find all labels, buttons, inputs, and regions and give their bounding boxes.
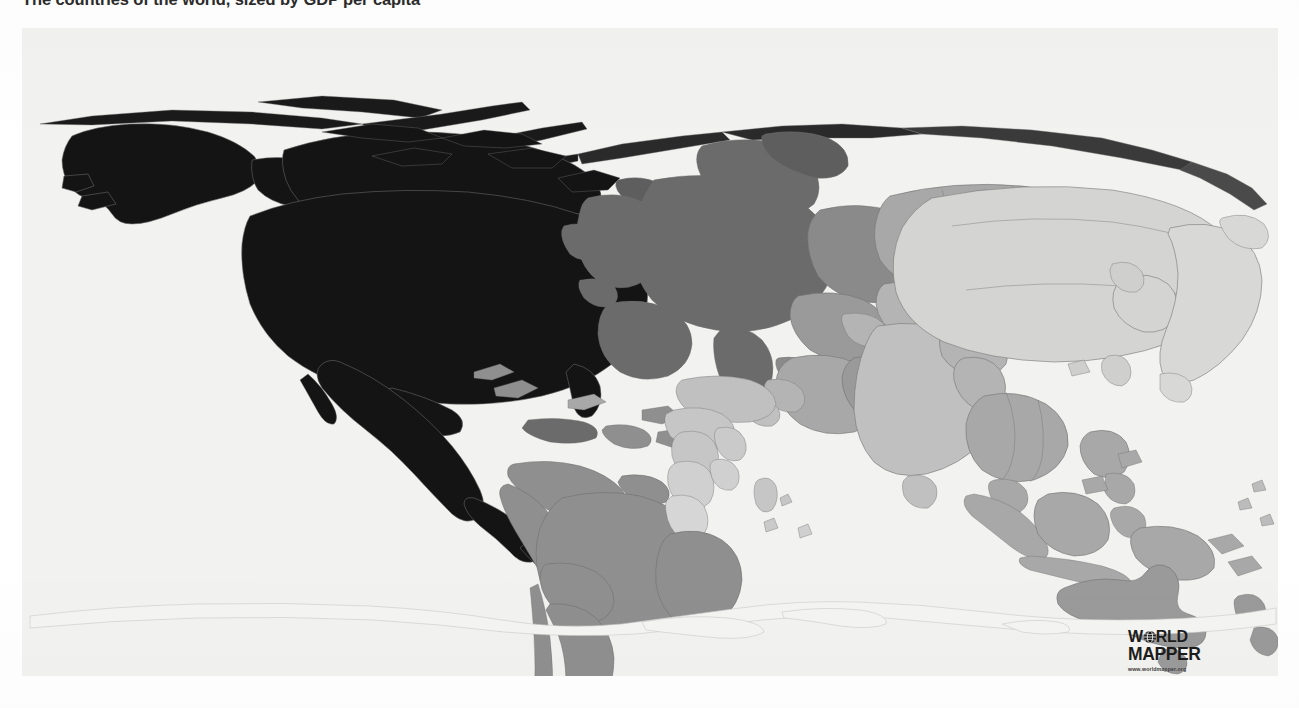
worldmapper-logo-rld-letters: RLD xyxy=(1156,629,1188,645)
worldmapper-url[interactable]: www.worldmapper.org xyxy=(1128,666,1236,672)
worldmapper-logo-w-letter: W xyxy=(1128,629,1143,645)
worldmapper-logo[interactable]: W RLD MAPPER www.worldmapper.org xyxy=(1128,628,1236,674)
world-cartogram xyxy=(22,28,1278,676)
region-southeast-asia xyxy=(964,392,1274,589)
cartogram-map-panel xyxy=(22,28,1278,676)
worldmapper-logo-world-row: W RLD xyxy=(1128,628,1236,645)
globe-icon xyxy=(1143,630,1157,644)
worldmapper-logo-mapper-word: MAPPER xyxy=(1128,646,1236,664)
page-title: The countries of the world, sized by GDP… xyxy=(22,0,420,9)
title-bar: The countries of the world, sized by GDP… xyxy=(0,0,1299,14)
